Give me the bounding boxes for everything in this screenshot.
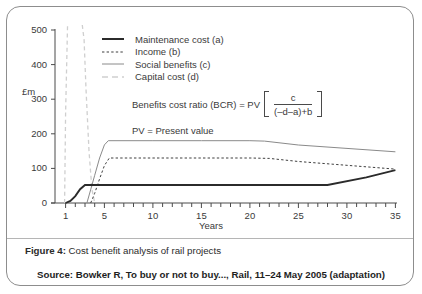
- chart-plot-area: 500 400 300 200 100 0 £m 1 5 10 15 20 25…: [7, 7, 414, 239]
- caption-divider: [7, 238, 414, 239]
- x-axis-ticks: [66, 203, 396, 208]
- y-axis-ticks: [51, 30, 55, 203]
- y-tick-label-500: 500: [17, 24, 47, 35]
- pv-definition-note: PV = Present value: [132, 125, 214, 136]
- legend-label-income: Income (b): [135, 46, 180, 57]
- bcr-denominator: (–d–a)+b: [274, 104, 312, 117]
- y-tick-label-400: 400: [17, 59, 47, 70]
- y-tick-label-0: 0: [17, 197, 47, 208]
- figure-caption-text: Cost benefit analysis of rail projects: [66, 245, 221, 256]
- figure-card: 500 400 300 200 100 0 £m 1 5 10 15 20 25…: [6, 6, 414, 286]
- legend-item-maintenance-cost: Maintenance cost (a): [101, 33, 224, 46]
- bcr-fraction: c (–d–a)+b: [269, 91, 317, 117]
- legend-swatch-solid-thin-icon: [101, 59, 125, 69]
- y-axis-title: £m: [22, 86, 35, 97]
- y-tick-label-100: 100: [17, 162, 47, 173]
- legend-label-social-benefits: Social benefits (c): [135, 59, 211, 70]
- legend-swatch-solid-thick-icon: [101, 34, 125, 44]
- series-line-maintenance-cost: [66, 170, 396, 203]
- y-tick-label-200: 200: [17, 128, 47, 139]
- figure-caption-number: Figure 4:: [25, 245, 66, 256]
- bcr-numerator: c: [274, 92, 312, 104]
- figure-source-line: Source: Bowker R, To buy or not to buy..…: [7, 269, 414, 280]
- bracket-right-icon: [317, 91, 322, 117]
- legend-item-income: Income (b): [101, 46, 224, 59]
- legend-swatch-dashed-light-icon: [101, 72, 125, 82]
- legend-swatch-dashed-fine-icon: [101, 47, 125, 57]
- series-line-capital-cost: [65, 9, 95, 203]
- legend-label-maintenance-cost: Maintenance cost (a): [135, 34, 224, 45]
- legend-item-social-benefits: Social benefits (c): [101, 58, 224, 71]
- bcr-formula-bracket-group: c (–d–a)+b: [264, 91, 322, 117]
- legend-item-capital-cost: Capital cost (d): [101, 71, 224, 84]
- chart-legend: Maintenance cost (a) Income (b) Social b…: [101, 33, 224, 83]
- bcr-formula: Benefits cost ratio (BCR) = PV c (–d–a)+…: [132, 91, 322, 117]
- series-line-social-benefits: [87, 141, 396, 203]
- figure-caption: Figure 4: Cost benefit analysis of rail …: [25, 245, 221, 256]
- bcr-formula-lead: Benefits cost ratio (BCR) = PV: [132, 99, 260, 110]
- legend-label-capital-cost: Capital cost (d): [135, 71, 199, 82]
- x-axis-title: Years: [7, 220, 414, 231]
